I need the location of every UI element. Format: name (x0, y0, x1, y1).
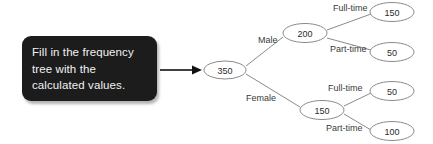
node-male: 200 (283, 24, 327, 43)
node-female-fulltime: 50 (370, 82, 414, 101)
node-male-parttime: 50 (370, 43, 414, 62)
node-root-total: 350 (204, 61, 246, 79)
node-male-value: 200 (297, 29, 312, 39)
edge-label-female-fulltime: Full-time (328, 83, 363, 93)
node-male-fulltime: 150 (370, 3, 414, 22)
node-female-parttime-value: 100 (384, 127, 399, 137)
branch-male-to-fulltime (327, 14, 371, 30)
edge-label-female: Female (246, 93, 276, 103)
edge-label-male-fulltime: Full-time (333, 3, 368, 13)
edge-label-female-parttime: Part-time (326, 123, 363, 133)
tree-canvas: 350 200 150 150 50 50 100 (0, 0, 433, 144)
node-female-parttime: 100 (370, 122, 414, 141)
node-female-fulltime-value: 50 (387, 87, 397, 97)
node-male-fulltime-value: 150 (384, 8, 399, 18)
node-female: 150 (300, 101, 344, 120)
edge-label-male-parttime: Part-time (330, 44, 367, 54)
branch-female-to-fulltime (344, 93, 371, 106)
node-male-parttime-value: 50 (387, 48, 397, 58)
node-female-value: 150 (314, 106, 329, 116)
frequency-tree-figure: Fill in the frequency tree with the calc… (0, 0, 433, 144)
callout-arrow (160, 66, 202, 75)
edge-label-male: Male (258, 35, 278, 45)
node-root-value: 350 (217, 66, 232, 76)
